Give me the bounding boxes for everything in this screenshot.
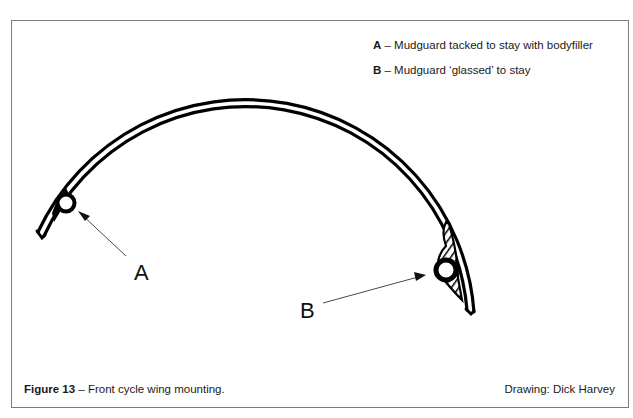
leader-b (323, 272, 426, 303)
mudguard-inner-edge (44, 107, 467, 310)
mudguard-diagram: A B (0, 0, 633, 418)
arrowhead-b (414, 272, 426, 281)
legend-item-a: A – Mudguard tacked to stay with bodyfil… (373, 38, 593, 52)
figure-label: Figure 13 (24, 383, 75, 395)
mudguard-left-end (37, 231, 45, 238)
legend-text: – Mudguard ‘glassed’ to stay (381, 64, 530, 76)
stay-a (58, 195, 75, 212)
leader-a (78, 211, 126, 256)
legend-item-b: B – Mudguard ‘glassed’ to stay (373, 63, 530, 77)
mudguard-arc (37, 100, 474, 314)
caption-text: – Front cycle wing mounting. (75, 383, 225, 395)
drawing-credit: Drawing: Dick Harvey (504, 383, 615, 395)
arrowhead-a (78, 211, 90, 221)
legend-text: – Mudguard tacked to stay with bodyfille… (381, 39, 593, 51)
stay-b (436, 260, 456, 280)
figure-caption: Figure 13 – Front cycle wing mounting. (24, 383, 225, 395)
callout-a-label: A (134, 260, 149, 285)
callout-b-label: B (300, 298, 315, 323)
mudguard-outer-edge (38, 100, 474, 312)
